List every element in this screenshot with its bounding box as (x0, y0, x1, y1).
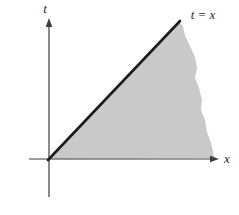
math-figure: t x t = x (0, 0, 239, 215)
t-axis-arrowhead-icon (46, 18, 53, 27)
t-axis-label: t (43, 1, 47, 16)
figure-canvas: t x t = x (0, 0, 239, 215)
line-label: t = x (191, 7, 216, 22)
x-axis-label: x (223, 151, 230, 166)
x-axis-arrowhead-icon (210, 156, 219, 163)
shaded-region (49, 22, 214, 159)
